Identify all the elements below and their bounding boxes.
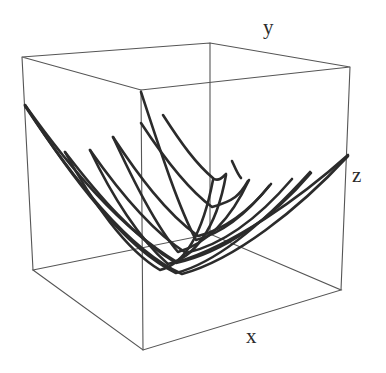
axis-label-x: x <box>246 326 257 347</box>
mesh-curve-a-6 <box>163 115 226 180</box>
axis-label-z: z <box>352 165 361 186</box>
box-edge-right-vertical <box>341 67 350 290</box>
box-top-face <box>22 43 350 90</box>
box-edge-front-vertical <box>141 90 143 350</box>
mesh-curve-a-5 <box>141 123 248 207</box>
bounding-box <box>22 43 350 350</box>
paraboloid-plot-canvas <box>0 0 386 373</box>
mesh-curve-b-1 <box>141 92 269 240</box>
axis-label-y: y <box>263 17 274 38</box>
plot-figure: y z x <box>0 0 386 373</box>
paraboloid-mesh <box>25 92 348 274</box>
box-edge-left-vertical <box>22 57 33 270</box>
mesh-curve-b-6 <box>232 161 241 178</box>
